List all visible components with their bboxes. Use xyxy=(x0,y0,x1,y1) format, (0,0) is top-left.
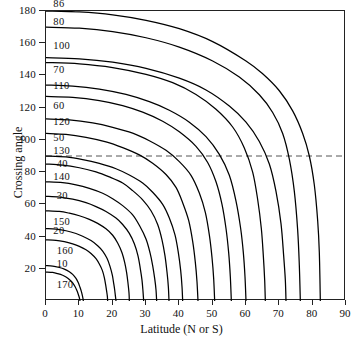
curve-annotation: 160 xyxy=(57,246,74,257)
curve-70/110b xyxy=(46,85,246,301)
x-tick-label: 90 xyxy=(340,308,351,319)
y-axis-label: Crossing angle xyxy=(11,118,26,208)
plot-area xyxy=(45,10,345,300)
y-tick-label: 20 xyxy=(25,262,36,273)
curve-80/100 xyxy=(46,27,300,301)
y-tick-label: 140 xyxy=(19,69,36,80)
curve-annotation: 10 xyxy=(57,259,68,270)
x-tick-mark xyxy=(212,300,213,305)
x-tick-mark xyxy=(112,300,113,305)
x-tick-mark xyxy=(45,300,46,305)
y-tick-label: 120 xyxy=(19,101,36,112)
curves-group xyxy=(46,11,346,301)
x-tick-mark xyxy=(312,300,313,305)
x-tick-label: 40 xyxy=(173,308,184,319)
x-tick-label: 0 xyxy=(42,308,48,319)
y-tick-mark xyxy=(39,236,45,237)
curve-annotation: 130 xyxy=(53,146,70,157)
curve-annotation: 100 xyxy=(53,41,70,52)
x-tick-label: 60 xyxy=(240,308,251,319)
y-tick-label: 40 xyxy=(25,230,36,241)
x-tick-label: 10 xyxy=(73,308,84,319)
curve-annotation: 40 xyxy=(57,159,68,170)
curve-annotation: 110 xyxy=(53,81,69,92)
y-tick-label: 100 xyxy=(19,133,36,144)
curve-annotation: 80 xyxy=(53,17,64,28)
chart-figure: Crossing angle Latitude (N or S) 2040608… xyxy=(0,0,363,357)
curve-annotation: 20 xyxy=(53,226,64,237)
y-tick-mark xyxy=(39,203,45,204)
x-tick-mark xyxy=(78,300,79,305)
y-tick-label: 160 xyxy=(19,37,36,48)
curve-annotation: 170 xyxy=(57,280,74,291)
x-tick-label: 50 xyxy=(206,308,217,319)
y-tick-mark xyxy=(39,171,45,172)
y-tick-label: 180 xyxy=(19,5,36,16)
x-tick-mark xyxy=(178,300,179,305)
curve-annotation: 86 xyxy=(53,0,64,10)
y-tick-label: 60 xyxy=(25,198,36,209)
y-tick-mark xyxy=(39,10,45,11)
y-tick-mark xyxy=(39,107,45,108)
y-tick-label: 80 xyxy=(25,166,36,177)
x-tick-mark xyxy=(278,300,279,305)
x-tick-label: 30 xyxy=(140,308,151,319)
x-tick-mark xyxy=(145,300,146,305)
x-tick-label: 20 xyxy=(106,308,117,319)
curve-annotation: 30 xyxy=(57,191,68,202)
curve-annotation: 120 xyxy=(53,117,70,128)
x-tick-mark xyxy=(245,300,246,305)
y-tick-mark xyxy=(39,74,45,75)
x-tick-label: 80 xyxy=(306,308,317,319)
y-tick-mark xyxy=(39,139,45,140)
curve-annotation: 50 xyxy=(53,133,64,144)
y-tick-mark xyxy=(39,268,45,269)
curve-60/120 xyxy=(46,96,231,301)
curve-annotation: 140 xyxy=(53,172,70,183)
curve-annotation: 60 xyxy=(53,101,64,112)
x-axis-label: Latitude (N or S) xyxy=(0,322,363,337)
x-tick-label: 70 xyxy=(273,308,284,319)
y-tick-mark xyxy=(39,42,45,43)
x-tick-mark xyxy=(345,300,346,305)
curve-annotation: 70 xyxy=(53,65,64,76)
